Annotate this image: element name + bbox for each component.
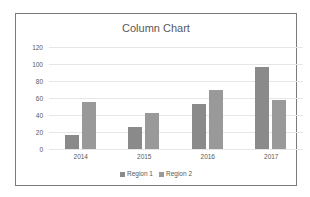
bar-region-2-2014	[82, 102, 96, 149]
legend-label: Region 1	[127, 170, 153, 177]
bar-region-2-2016	[209, 90, 223, 150]
x-tick-label: 2014	[74, 153, 88, 160]
gridline	[49, 47, 303, 48]
y-tick-label: 80	[21, 78, 43, 85]
legend: Region 1Region 2	[16, 170, 296, 177]
bar-region-1-2014	[65, 135, 79, 149]
y-tick-label: 40	[21, 112, 43, 119]
y-tick-label: 20	[21, 129, 43, 136]
gridline	[49, 64, 303, 65]
legend-item: Region 1	[120, 170, 153, 177]
y-tick-label: 100	[21, 61, 43, 68]
bar-region-1-2017	[255, 67, 269, 149]
chart-frame: Column Chart 020406080100120201420152016…	[15, 13, 297, 186]
legend-swatch-icon	[120, 172, 125, 177]
chart-title: Column Chart	[16, 22, 296, 34]
x-tick-label: 2016	[201, 153, 215, 160]
bar-region-2-2015	[145, 113, 159, 149]
legend-item: Region 2	[159, 170, 192, 177]
x-tick-label: 2017	[264, 153, 278, 160]
bar-region-1-2016	[192, 104, 206, 149]
y-tick-label: 120	[21, 44, 43, 51]
y-tick-label: 0	[21, 146, 43, 153]
y-tick-label: 60	[21, 95, 43, 102]
bar-region-2-2017	[272, 100, 286, 149]
bar-region-1-2015	[128, 127, 142, 149]
legend-swatch-icon	[159, 172, 164, 177]
gridline	[49, 149, 303, 150]
x-tick-label: 2015	[137, 153, 151, 160]
plot-area: 0204060801001202014201520162017	[49, 47, 303, 149]
legend-label: Region 2	[166, 170, 192, 177]
